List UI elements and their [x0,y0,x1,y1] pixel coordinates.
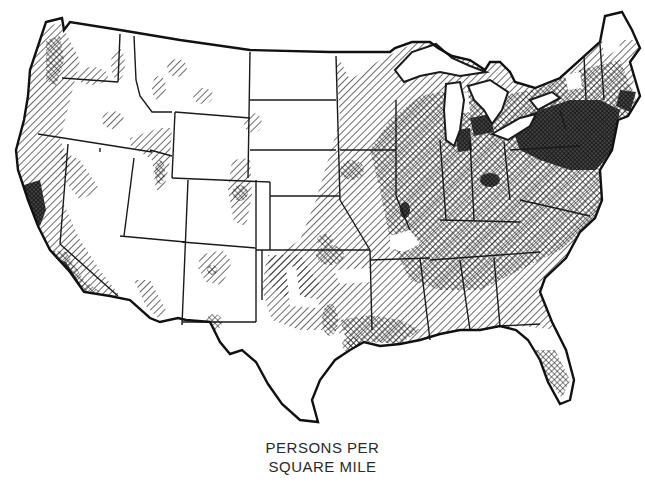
zone-oklahoma-medium [317,234,333,246]
zone-snake-river-low [130,128,172,190]
zone-texas-b-medium [322,304,338,336]
zone-texas-a-medium [316,245,344,265]
caption-line-1: PERSONS PER [0,438,645,457]
zone-wyoming-low [244,113,262,133]
density-zones [14,18,640,398]
zone-denver-medium [232,185,248,201]
zone-montana-b-low [152,76,166,100]
caption-line-2: SQUARE MILE [0,457,645,476]
zone-montana-a-low [167,59,187,77]
zone-spokane-low [76,67,108,85]
zone-arkansas-sparse [334,268,372,284]
zone-kansas-city-medium [340,160,364,180]
zone-albuquerque-medium [207,265,217,275]
population-density-map: PERSONS PER SQUARE MILE [0,0,645,488]
zone-pittsburgh-high [480,173,500,187]
zone-montana-c-low [193,88,213,104]
zone-phoenix-low [134,280,166,320]
zone-salt-lake-medium [155,160,165,184]
us-map [0,0,645,430]
map-caption: PERSONS PER SQUARE MILE [0,438,645,476]
zone-boise-low [102,111,124,129]
zone-adirondack-sparse [565,72,582,90]
